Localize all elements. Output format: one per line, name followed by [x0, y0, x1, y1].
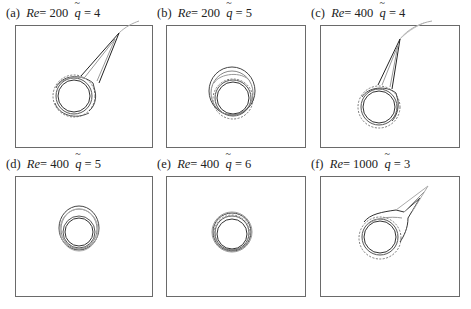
panel-b-caption: (b) Re= 200 q = 5: [157, 6, 252, 21]
panel-d-vortex-diagram: [15, 176, 153, 297]
panel-d: (d) Re= 400 q = 5: [15, 176, 153, 297]
panel-e: (e) Re= 400 q = 6: [166, 176, 306, 297]
panel-b: (b) Re= 200 q = 5: [166, 25, 306, 148]
panel-e-caption: (e) Re= 400 q = 6: [157, 157, 251, 172]
panel-a-vortex-diagram: [15, 25, 153, 148]
panel-a-caption: (a) Re= 200 q = 4: [6, 6, 100, 21]
panel-c-vortex-diagram: [320, 25, 460, 148]
panel-c-caption: (c) Re= 400 q = 4: [311, 6, 405, 21]
panel-a: (a) Re= 200 q = 4: [15, 25, 153, 148]
panel-d-caption: (d) Re= 400 q = 5: [6, 157, 101, 172]
panel-f-vortex-diagram: [320, 176, 460, 297]
panel-c: (c) Re= 400 q = 4: [320, 25, 460, 148]
panel-e-vortex-diagram: [166, 176, 306, 297]
panel-f-caption: (f) Re= 1000 q = 3: [311, 157, 410, 172]
panel-f: (f) Re= 1000 q = 3: [320, 176, 460, 297]
panel-b-vortex-diagram: [166, 25, 306, 148]
